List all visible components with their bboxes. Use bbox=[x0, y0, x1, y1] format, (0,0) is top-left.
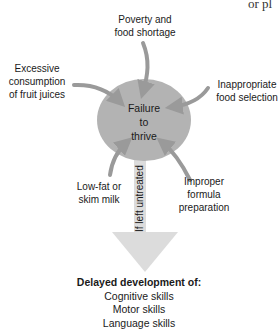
outcome-item: Language skills bbox=[0, 317, 278, 331]
cause-fruit-juice: Excessive consumption of fruit juices bbox=[2, 62, 72, 101]
center-label: Failure to thrive bbox=[114, 101, 174, 143]
arrow-poverty bbox=[143, 43, 148, 92]
outcome-item: Cognitive skills bbox=[0, 290, 278, 304]
outcome-heading: Delayed development of: bbox=[0, 276, 278, 290]
cause-food-selection: Inappropriate food selection bbox=[212, 78, 278, 104]
outcome-item: Motor skills bbox=[0, 303, 278, 317]
outcome-block: Delayed development of: Cognitive skills… bbox=[0, 276, 278, 330]
cause-poverty: Poverty and food shortage bbox=[105, 13, 185, 39]
cause-low-fat-milk: Low-fat or skim milk bbox=[68, 180, 130, 206]
arrow-label: If left untreated bbox=[134, 165, 145, 232]
cause-formula: Improper formula preparation bbox=[168, 175, 240, 214]
